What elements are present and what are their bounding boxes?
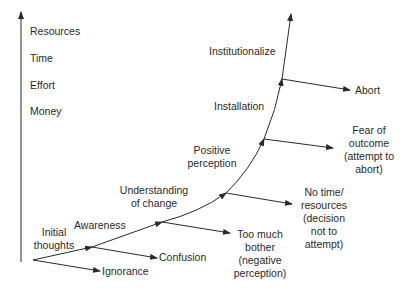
- outcome-abort: Abort: [355, 84, 380, 97]
- outcome-confusion: Confusion: [159, 251, 206, 264]
- stage-positive-perception: Positive perception: [182, 144, 242, 170]
- axis-label-resources: Resources: [30, 25, 80, 38]
- stage-understanding: Understanding of change: [114, 184, 194, 210]
- branch-ignorance: [33, 260, 100, 271]
- stage-installation: Installation: [214, 100, 264, 113]
- branch-too-much-bother: [162, 222, 230, 233]
- branch-fear: [264, 139, 333, 148]
- axis-label-money: Money: [30, 105, 62, 118]
- stage-awareness: Awareness: [74, 219, 126, 232]
- outcome-fear-of-outcome: Fear of outcome (attempt to abort): [334, 124, 404, 176]
- axis-label-time: Time: [30, 52, 53, 65]
- branch-abort: [282, 79, 350, 90]
- stage-institutionalize: Institutionalize: [209, 45, 276, 58]
- outcome-no-time: No time/ resources (decision not to atte…: [294, 186, 354, 251]
- branch-no-time: [226, 193, 292, 204]
- branch-confusion: [92, 247, 157, 258]
- outcome-too-much-bother: Too much bother (negative perception): [230, 228, 290, 280]
- axis-label-effort: Effort: [30, 79, 55, 92]
- outcome-ignorance: Ignorance: [102, 265, 149, 278]
